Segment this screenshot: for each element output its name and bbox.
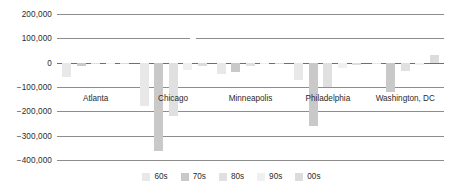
y-axis-tick-label: −400,000 [17, 156, 52, 165]
bar [372, 63, 381, 64]
bar [77, 63, 86, 67]
legend-label: 80s [231, 172, 244, 181]
y-axis-tick-label: −200,000 [17, 107, 52, 116]
bar [246, 63, 255, 67]
y-axis-tick-label: 0 [47, 58, 52, 67]
legend-swatch-icon [295, 173, 303, 181]
legend-swatch-icon [257, 173, 265, 181]
bar [169, 63, 178, 117]
category-label: Minneapolis [229, 94, 273, 103]
bar-group [134, 14, 211, 160]
category-label: Chicago [158, 94, 188, 103]
legend-swatch-icon [181, 173, 189, 181]
bar [231, 63, 240, 73]
y-axis-tick-label: 200,000 [22, 10, 52, 19]
bar [260, 63, 269, 64]
y-axis-tick-label: −100,000 [17, 83, 52, 92]
bar [62, 63, 71, 78]
bar [120, 63, 129, 64]
bar [338, 63, 347, 68]
bar [217, 63, 226, 74]
bar-group [289, 14, 366, 160]
bar [106, 63, 115, 64]
bar [415, 63, 424, 65]
bar [352, 63, 361, 65]
category-label: Atlanta [83, 94, 109, 103]
gridline [57, 160, 444, 161]
category-label: Philadelphia [306, 94, 351, 103]
legend-item[interactable]: 70s [181, 172, 206, 181]
bar [386, 63, 395, 92]
bar-group [367, 14, 444, 160]
legend-item[interactable]: 60s [142, 172, 167, 181]
bar [91, 63, 100, 64]
bar [275, 63, 284, 64]
legend-label: 00s [307, 172, 320, 181]
y-axis-tick-label: −300,000 [17, 131, 52, 140]
y-axis-tick-label: 100,000 [22, 34, 52, 43]
legend-label: 70s [193, 172, 206, 181]
bar [198, 63, 207, 67]
legend-item[interactable]: 80s [219, 172, 244, 181]
bar-chart: 200,000100,0000−100,000−200,000−300,000−… [0, 0, 463, 196]
bar [401, 63, 410, 72]
bar [323, 63, 332, 87]
legend-label: 60s [154, 172, 167, 181]
bar [140, 63, 149, 107]
bar [294, 63, 303, 80]
bar [183, 63, 192, 70]
legend-item[interactable]: 00s [295, 172, 320, 181]
bar-group [212, 14, 289, 160]
bar-group [57, 14, 134, 160]
plot-area: AtlantaChicagoMinneapolisPhiladelphiaWas… [57, 14, 444, 160]
bar [154, 63, 163, 152]
bar [430, 55, 439, 62]
category-label: Washington, DC [376, 94, 435, 103]
chart-legend: 60s70s80s90s00s [0, 172, 463, 181]
legend-label: 90s [269, 172, 282, 181]
y-axis-tick-labels: 200,000100,0000−100,000−200,000−300,000−… [0, 14, 52, 160]
legend-swatch-icon [142, 173, 150, 181]
legend-item[interactable]: 90s [257, 172, 282, 181]
legend-swatch-icon [219, 173, 227, 181]
